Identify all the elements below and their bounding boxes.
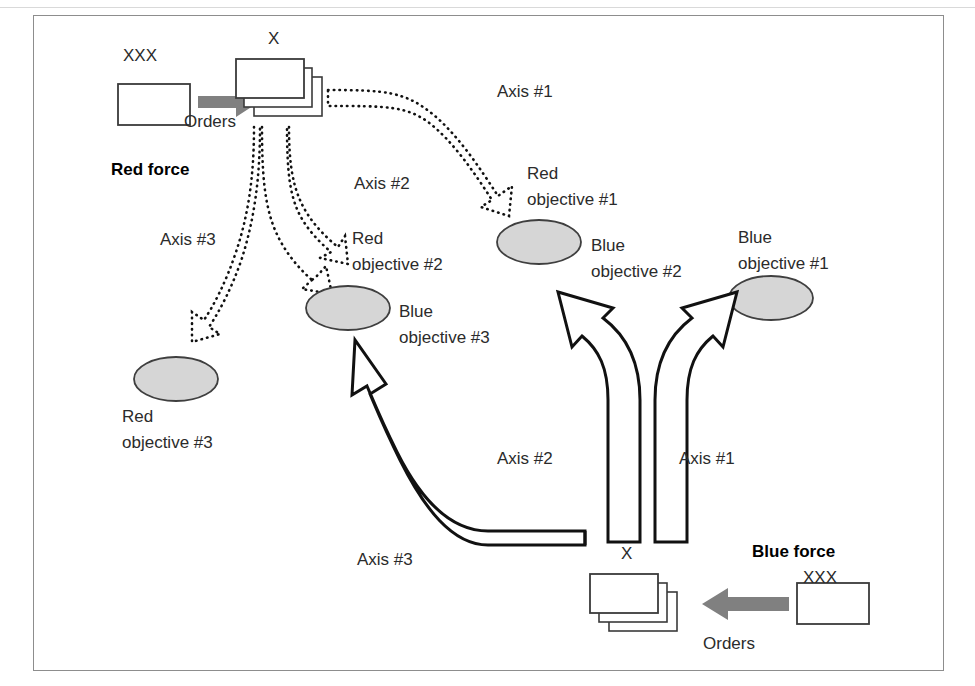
blue-objective-1-label-line1: Blue (738, 226, 772, 249)
red-objective-3-label-line2: objective #3 (122, 431, 213, 454)
blue-orders-label: Orders (703, 632, 755, 655)
red-objective-2-label-line1: Red (352, 227, 383, 250)
blue-objective-1-label-line2: objective #1 (738, 252, 829, 275)
blue-axis-1-label: Axis #1 (679, 447, 735, 470)
blue-objective-2-label-line1: Blue (591, 234, 625, 257)
scan-artifact-line (0, 7, 975, 8)
red-hq-echelon-label: XXX (123, 44, 157, 67)
red-objective-3-label-line1: Red (122, 405, 153, 428)
red-objective-2-label-line2: objective #2 (352, 253, 443, 276)
blue-objective-2-label-line2: objective #2 (591, 260, 682, 283)
red-axis-1-label: Axis #1 (497, 80, 553, 103)
blue-unit-echelon-label: X (621, 542, 632, 565)
diagram-root: XXX X Orders Red force Axis #1 Axis #2 A… (0, 0, 975, 686)
blue-objective-3-label-line1: Blue (399, 300, 433, 323)
red-orders-label: Orders (184, 110, 236, 133)
red-axis-3-label: Axis #3 (160, 228, 216, 251)
red-unit-echelon-label: X (268, 27, 279, 50)
blue-objective-3-label-line2: objective #3 (399, 326, 490, 349)
red-objective-1-label-line2: objective #1 (527, 188, 618, 211)
red-force-label: Red force (111, 158, 189, 181)
blue-force-label: Blue force (752, 540, 835, 563)
red-axis-2-label: Axis #2 (354, 172, 410, 195)
blue-axis-3-label: Axis #3 (357, 548, 413, 571)
blue-axis-2-label: Axis #2 (497, 447, 553, 470)
red-objective-1-label-line1: Red (527, 162, 558, 185)
blue-hq-echelon-label: XXX (803, 566, 837, 589)
